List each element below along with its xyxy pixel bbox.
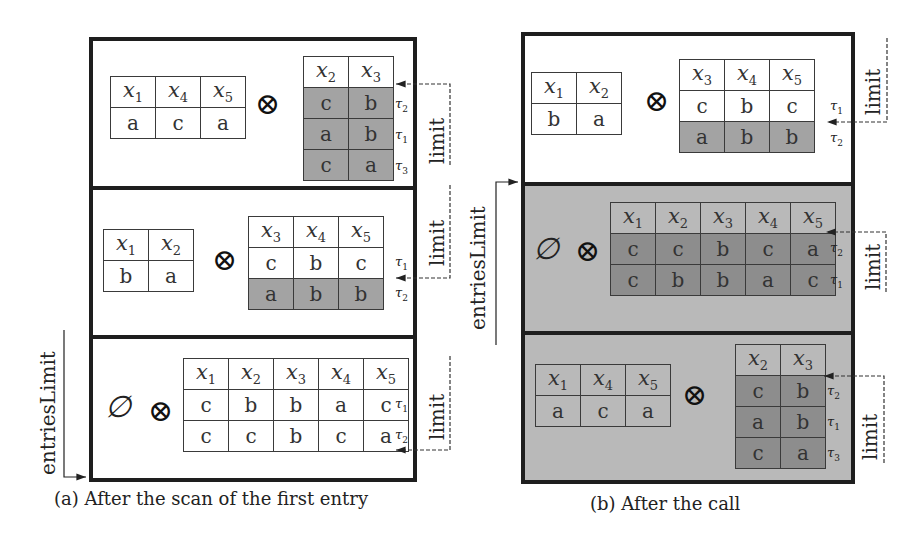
attr-header: x2 — [304, 57, 349, 88]
cell: b — [701, 265, 746, 296]
otimes-operator: ⊗ — [575, 236, 600, 266]
attr-header: x2 — [736, 345, 781, 376]
cell: b — [349, 119, 394, 150]
panel-b-s1-left-relation: x1 x2 b a — [531, 72, 622, 135]
cell: a — [201, 108, 246, 139]
cell: b — [532, 104, 577, 135]
empty-set-symbol: ∅ — [105, 389, 131, 424]
cell: b — [701, 234, 746, 265]
cell: c — [656, 234, 701, 265]
cell: b — [274, 390, 319, 421]
cell: c — [184, 421, 229, 452]
otimes-operator: ⊗ — [255, 89, 280, 119]
cell: c — [581, 396, 626, 427]
panel-b-s3-left-relation: x1 x4 x5 a c a — [535, 364, 671, 427]
cell: c — [156, 108, 201, 139]
cell: c — [680, 91, 725, 122]
attr-header: x3 — [781, 345, 826, 376]
cell: c — [770, 91, 815, 122]
tuple-label: τ2 — [395, 96, 408, 114]
cell: c — [736, 438, 781, 469]
cell: c — [229, 421, 274, 452]
attr-header: x3 — [249, 217, 294, 248]
cell: c — [746, 234, 791, 265]
cell: b — [725, 122, 770, 153]
attr-header: x4 — [294, 217, 339, 248]
attr-header: x1 — [104, 230, 149, 261]
otimes-operator: ⊗ — [682, 380, 707, 410]
panel-b-section-1: x1 x2 b a ⊗ x3 x4 x5 c b c a b b — [525, 36, 851, 186]
cell: c — [611, 234, 656, 265]
cell: b — [349, 88, 394, 119]
cell: c — [304, 88, 349, 119]
cell: b — [656, 265, 701, 296]
panel-a-s1-right-relation: x2 x3 c b a b c a — [303, 56, 394, 181]
cell: b — [294, 279, 339, 310]
limit-label: limit — [425, 394, 449, 440]
cell: a — [577, 104, 622, 135]
attr-header: x3 — [274, 359, 319, 390]
attr-header: x2 — [656, 203, 701, 234]
cell: b — [294, 248, 339, 279]
attr-header: x1 — [536, 365, 581, 396]
panel-b-s2-right-relation: x1 x2 x3 x4 x5 c c b c a c b b a c — [610, 202, 836, 296]
cell: a — [791, 234, 836, 265]
cell: c — [611, 265, 656, 296]
attr-header: x1 — [111, 77, 156, 108]
panel-b-section-3: x1 x4 x5 a c a ⊗ x2 x3 c b a b — [525, 331, 851, 480]
tuple-label: τ1 — [830, 272, 843, 290]
cell: c — [791, 265, 836, 296]
tuple-label: τ1 — [395, 127, 408, 145]
attr-header: x4 — [725, 60, 770, 91]
tuple-label: τ2 — [395, 285, 408, 303]
tuple-label: τ2 — [827, 383, 840, 401]
panel-b-s3-right-relation: x2 x3 c b a b c a — [735, 344, 826, 469]
attr-header: x2 — [229, 359, 274, 390]
cell: a — [319, 390, 364, 421]
cell: b — [274, 421, 319, 452]
attr-header: x4 — [319, 359, 364, 390]
cell: c — [249, 248, 294, 279]
attr-header: x5 — [626, 365, 671, 396]
panel-a: x1 x4 x5 a c a ⊗ x2 x3 c b a b — [89, 37, 417, 482]
limit-label: limit — [861, 69, 885, 115]
panel-a-s2-left-relation: x1 x2 b a — [103, 229, 194, 292]
cell: b — [339, 279, 384, 310]
attr-header: x2 — [149, 230, 194, 261]
limit-label: limit — [425, 118, 449, 164]
tuple-label: τ2 — [830, 240, 843, 258]
attr-header: x4 — [581, 365, 626, 396]
attr-header: x4 — [156, 77, 201, 108]
panel-a-section-2: x1 x2 b a ⊗ x3 x4 x5 c b c a b b — [93, 186, 413, 337]
attr-header: x5 — [364, 359, 409, 390]
panel-b-s1-right-relation: x3 x4 x5 c b c a b b — [679, 59, 815, 153]
attr-header: x1 — [611, 203, 656, 234]
cell: c — [184, 390, 229, 421]
tuple-label: τ2 — [830, 130, 843, 148]
attr-header: x3 — [701, 203, 746, 234]
cell: a — [349, 150, 394, 181]
tuple-label: τ1 — [395, 254, 408, 272]
cell: a — [249, 279, 294, 310]
entries-limit-label: entriesLimit — [36, 351, 60, 475]
cell: a — [111, 108, 156, 139]
limit-label: limit — [425, 220, 449, 266]
cell: b — [229, 390, 274, 421]
cell: c — [304, 150, 349, 181]
attr-header: x1 — [532, 73, 577, 104]
panel-a-section-3: ∅ ⊗ x1 x2 x3 x4 x5 c b b a c c c b c — [93, 335, 413, 478]
cell: a — [736, 407, 781, 438]
cell: a — [536, 396, 581, 427]
cell: a — [149, 261, 194, 292]
tuple-label: τ1 — [395, 396, 408, 414]
cell: b — [781, 407, 826, 438]
panel-a-section-1: x1 x4 x5 a c a ⊗ x2 x3 c b a b — [93, 41, 413, 188]
tuple-label: τ1 — [830, 98, 843, 116]
cell: c — [339, 248, 384, 279]
attr-header: x4 — [746, 203, 791, 234]
cell: a — [680, 122, 725, 153]
attr-header: x5 — [339, 217, 384, 248]
cell: a — [626, 396, 671, 427]
otimes-operator: ⊗ — [644, 86, 669, 116]
tuple-label: τ3 — [395, 158, 408, 176]
